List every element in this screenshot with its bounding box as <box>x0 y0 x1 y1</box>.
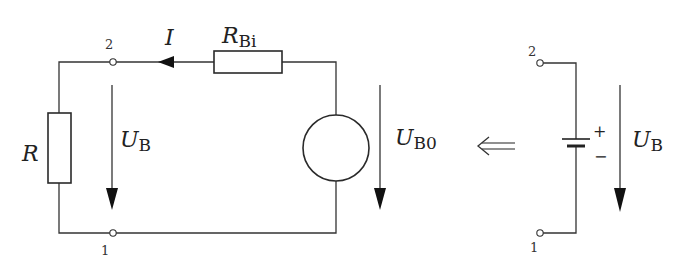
wire-battery-top <box>543 63 576 139</box>
terminal-voltage-label-right: UB <box>632 127 663 155</box>
current-label: I <box>164 25 175 50</box>
wire-bottom-right <box>116 181 336 233</box>
load-resistor <box>48 113 71 183</box>
equivalence-arrow-icon <box>478 137 515 155</box>
wire-top-right <box>282 62 336 115</box>
wire-top-left <box>59 62 110 113</box>
terminal-1-left <box>110 230 116 236</box>
terminal-2-left <box>110 59 116 65</box>
current-arrow-icon <box>158 56 174 68</box>
terminal-1-label-right: 1 <box>530 240 538 255</box>
terminal-voltage-label-left: UB <box>120 127 151 155</box>
battery-minus-sign: − <box>594 147 607 166</box>
right-circuit: + − 2 1 UB <box>528 44 663 255</box>
wire-bottom-left <box>59 183 110 233</box>
battery-voltage-arrow-icon <box>614 188 626 212</box>
load-resistor-label: R <box>21 141 39 166</box>
wire-battery-bottom <box>543 146 576 233</box>
source-voltage-arrow-icon <box>374 188 386 210</box>
terminal-1-right <box>537 230 543 236</box>
terminal-voltage-arrow-icon <box>106 188 118 210</box>
battery-plus-sign: + <box>593 122 606 141</box>
source-voltage-label: UB0 <box>395 125 437 153</box>
terminal-2-label-right: 2 <box>528 44 536 59</box>
internal-resistor <box>214 51 282 73</box>
terminal-1-label-left: 1 <box>101 243 109 258</box>
terminal-2-label-left: 2 <box>105 37 113 52</box>
voltage-source <box>303 115 369 181</box>
circuit-diagram: RBi I R 2 1 UB UB0 + − <box>0 0 682 270</box>
left-circuit: RBi I R 2 1 UB UB0 <box>21 23 437 258</box>
terminal-2-right <box>537 60 543 66</box>
internal-resistor-label: RBi <box>221 23 257 51</box>
